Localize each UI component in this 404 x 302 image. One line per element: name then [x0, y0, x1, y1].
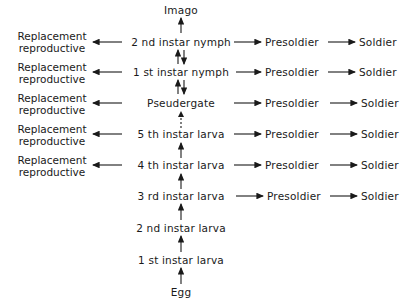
soldier-5: Soldier — [361, 159, 399, 171]
soldier-2: Soldier — [359, 66, 397, 78]
presoldier-1: Presoldier — [265, 36, 319, 48]
stage-2nd-larva: 2 nd instar larva — [136, 222, 226, 234]
presoldier-5: Presoldier — [265, 159, 319, 171]
replacement-reproductive-2: Replacementreproductive — [2, 61, 102, 85]
stage-3rd-larva: 3 rd instar larva — [137, 190, 224, 202]
soldier-3: Soldier — [361, 97, 399, 109]
presoldier-3: Presoldier — [265, 97, 319, 109]
replacement-reproductive-4: Replacementreproductive — [2, 123, 102, 147]
stage-egg: Egg — [171, 286, 192, 298]
soldier-1: Soldier — [359, 36, 397, 48]
presoldier-6: Presoldier — [267, 190, 321, 202]
stage-pseudergate: Pseudergate — [147, 97, 215, 109]
soldier-6: Soldier — [361, 190, 399, 202]
replacement-reproductive-1: Replacementreproductive — [2, 30, 102, 54]
stage-1st-larva: 1 st instar larva — [138, 254, 224, 266]
stage-imago: Imago — [164, 4, 198, 16]
presoldier-4: Presoldier — [265, 128, 319, 140]
stage-4th-larva: 4 th instar larva — [137, 159, 224, 171]
stage-2nd-nymph: 2 nd instar nymph — [131, 36, 231, 48]
soldier-4: Soldier — [361, 128, 399, 140]
stage-5th-larva: 5 th instar larva — [137, 128, 224, 140]
replacement-reproductive-5: Replacementreproductive — [2, 154, 102, 178]
replacement-reproductive-3: Replacementreproductive — [2, 92, 102, 116]
stage-1st-nymph: 1 st instar nymph — [133, 66, 229, 78]
presoldier-2: Presoldier — [265, 66, 319, 78]
